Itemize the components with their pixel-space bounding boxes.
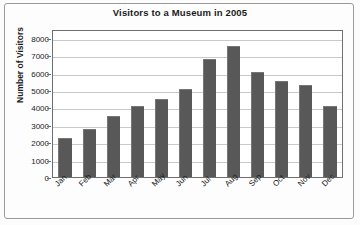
y-tick-mark <box>47 108 51 109</box>
bar-nov <box>299 85 312 177</box>
x-label-slot: Jun <box>173 180 197 220</box>
bar-oct <box>275 81 288 177</box>
x-label-slot: Dec <box>319 180 343 220</box>
y-tick-label: 8000 <box>3 34 49 43</box>
bar-slot <box>101 31 125 177</box>
y-tick-mark <box>47 74 51 75</box>
chart-title: Visitors to a Museum in 2005 <box>0 7 360 18</box>
bar-slot <box>53 31 77 177</box>
bar-slot <box>246 31 270 177</box>
bar-may <box>155 99 168 177</box>
x-label-slot: Aug <box>222 180 246 220</box>
y-tick-label: 0 <box>3 174 49 183</box>
bar-slot <box>197 31 221 177</box>
bar-sep <box>251 72 264 177</box>
y-tick-label: 1000 <box>3 156 49 165</box>
bar-slot <box>318 31 342 177</box>
x-label-slot: Nov <box>295 180 319 220</box>
y-tick-mark <box>47 56 51 57</box>
bar-slot <box>149 31 173 177</box>
y-axis-ticks: 010002000300040005000600070008000 <box>0 30 49 178</box>
bar-apr <box>131 106 144 177</box>
y-tick-label: 6000 <box>3 69 49 78</box>
y-tick-label: 4000 <box>3 104 49 113</box>
x-label-slot: Apr <box>125 180 149 220</box>
y-tick-mark <box>47 178 51 179</box>
x-label-slot: Feb <box>76 180 100 220</box>
x-label-slot: Mar <box>101 180 125 220</box>
bar-slot <box>222 31 246 177</box>
bar-jun <box>179 89 192 177</box>
bar-series <box>53 31 342 177</box>
x-label-slot: Jan <box>52 180 76 220</box>
bar-slot <box>125 31 149 177</box>
y-tick-label: 2000 <box>3 139 49 148</box>
x-axis-labels: JanFebMarAprMayJunJulAugSepOctNovDec <box>52 180 343 220</box>
y-tick-label: 3000 <box>3 121 49 130</box>
y-tick-label: 5000 <box>3 86 49 95</box>
y-tick-label: 7000 <box>3 52 49 61</box>
y-tick-mark <box>47 91 51 92</box>
y-tick-mark <box>47 39 51 40</box>
x-label-slot: Sep <box>246 180 270 220</box>
plot-area <box>52 30 343 178</box>
y-tick-mark <box>47 143 51 144</box>
bar-slot <box>77 31 101 177</box>
x-label-slot: Oct <box>270 180 294 220</box>
bar-jan <box>58 138 71 177</box>
y-tick-mark <box>47 126 51 127</box>
bar-slot <box>173 31 197 177</box>
x-label-slot: Jul <box>198 180 222 220</box>
bar-slot <box>270 31 294 177</box>
y-tick-mark <box>47 161 51 162</box>
bar-mar <box>107 116 120 177</box>
chart-page: Visitors to a Museum in 2005 Number of V… <box>0 0 360 225</box>
bar-dec <box>323 106 336 177</box>
x-label-slot: May <box>149 180 173 220</box>
bar-feb <box>83 129 96 177</box>
bar-aug <box>227 46 240 177</box>
bar-jul <box>203 59 216 177</box>
bar-slot <box>294 31 318 177</box>
